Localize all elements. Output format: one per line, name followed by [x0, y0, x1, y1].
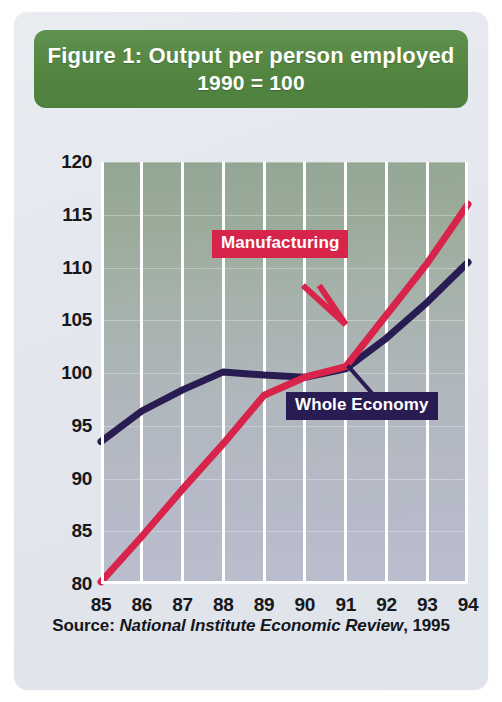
y-axis-tick-label: 110: [46, 257, 92, 279]
plot-area: [101, 162, 468, 584]
figure-title-banner: Figure 1: Output per person employed 199…: [34, 30, 468, 108]
series-label-manufacturing: Manufacturing: [212, 230, 348, 258]
chart-plot-wrapper: 80859095100105110115120 8586878889909192…: [34, 124, 468, 602]
figure-title-line-1: Figure 1: Output per person employed: [48, 43, 455, 70]
y-axis: 80859095100105110115120: [34, 124, 92, 602]
y-axis-tick-label: 105: [46, 309, 92, 331]
leader-line-manufacturing: [303, 285, 346, 324]
x-axis-tick-label: 92: [376, 594, 397, 616]
x-axis-tick-label: 89: [254, 594, 275, 616]
series-layer: [101, 162, 468, 584]
series-label-whole-economy: Whole Economy: [286, 392, 438, 420]
y-axis-tick-label: 90: [46, 468, 92, 490]
x-axis-tick-label: 85: [91, 594, 112, 616]
source-journal-title: National Institute Economic Review: [119, 616, 403, 635]
x-axis-tick-label: 88: [213, 594, 234, 616]
x-axis-tick-label: 90: [295, 594, 316, 616]
x-axis-tick-label: 87: [172, 594, 193, 616]
x-axis-tick-label: 86: [131, 594, 152, 616]
y-axis-tick-label: 85: [46, 520, 92, 542]
x-axis-tick-label: 94: [458, 594, 479, 616]
figure-card: Figure 1: Output per person employed 199…: [14, 12, 488, 690]
x-axis-tick-label: 91: [335, 594, 356, 616]
source-prefix: Source:: [52, 616, 115, 635]
y-axis-tick-label: 115: [46, 204, 92, 226]
y-axis-tick-label: 80: [46, 573, 92, 595]
y-axis-tick-label: 120: [46, 151, 92, 173]
source-note: Source: National Institute Economic Revi…: [34, 616, 468, 636]
y-axis-tick-label: 100: [46, 362, 92, 384]
source-year: , 1995: [403, 616, 450, 635]
figure-title-line-2: 1990 = 100: [197, 70, 305, 96]
x-axis-tick-label: 93: [417, 594, 438, 616]
y-axis-tick-label: 95: [46, 415, 92, 437]
